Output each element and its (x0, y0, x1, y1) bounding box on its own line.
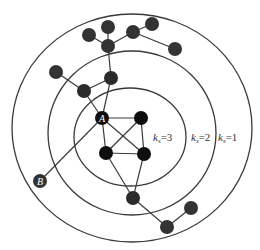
node-A: A (95, 111, 109, 125)
shell-label-1: ks=1 (218, 131, 237, 145)
node-circle (145, 17, 159, 31)
node-n12 (145, 17, 159, 31)
node-n10 (101, 20, 115, 34)
node-label: B (37, 176, 43, 187)
shell-label-2: ks=2 (191, 131, 210, 145)
node-n11 (126, 25, 140, 39)
node-n3 (99, 146, 113, 160)
shell-label-3: ks=3 (153, 131, 173, 145)
k-shell-diagram: AB ks=3ks=2ks=1 (0, 0, 260, 250)
node-circle (137, 147, 151, 161)
node-circle (49, 65, 63, 79)
node-circle (126, 191, 140, 205)
node-circle (160, 220, 174, 234)
node-n17 (184, 201, 198, 215)
edge-n2-n3 (106, 118, 141, 153)
node-circle (82, 28, 96, 42)
node-circle (168, 42, 182, 56)
node-circle (184, 201, 198, 215)
node-n5 (104, 71, 118, 85)
node-n6 (77, 84, 91, 98)
diagram-canvas: AB ks=3ks=2ks=1 (0, 0, 260, 250)
node-n7 (126, 191, 140, 205)
edge-n3-n7 (106, 153, 133, 198)
node-n13 (168, 42, 182, 56)
node-n14 (49, 65, 63, 79)
node-circle (134, 111, 148, 125)
shell-labels: ks=3ks=2ks=1 (153, 131, 237, 145)
node-n9 (82, 28, 96, 42)
node-B: B (33, 174, 47, 188)
nodes: AB (33, 17, 198, 234)
node-n4 (137, 147, 151, 161)
node-n8 (101, 39, 115, 53)
node-label: A (98, 113, 106, 124)
node-circle (104, 71, 118, 85)
node-circle (101, 39, 115, 53)
node-circle (126, 25, 140, 39)
node-circle (77, 84, 91, 98)
node-circle (99, 146, 113, 160)
edges (40, 24, 191, 227)
node-circle (101, 20, 115, 34)
node-n2 (134, 111, 148, 125)
node-n16 (160, 220, 174, 234)
shell-rings (12, 14, 252, 242)
